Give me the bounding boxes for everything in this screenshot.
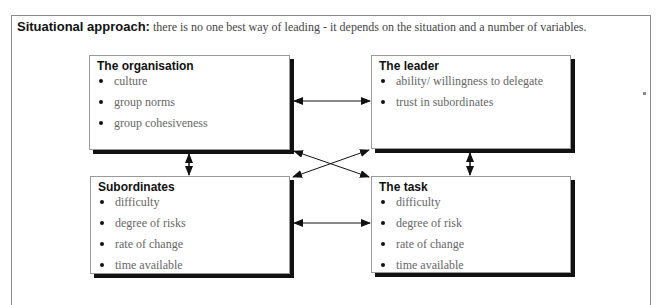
stray-mark — [643, 92, 646, 95]
